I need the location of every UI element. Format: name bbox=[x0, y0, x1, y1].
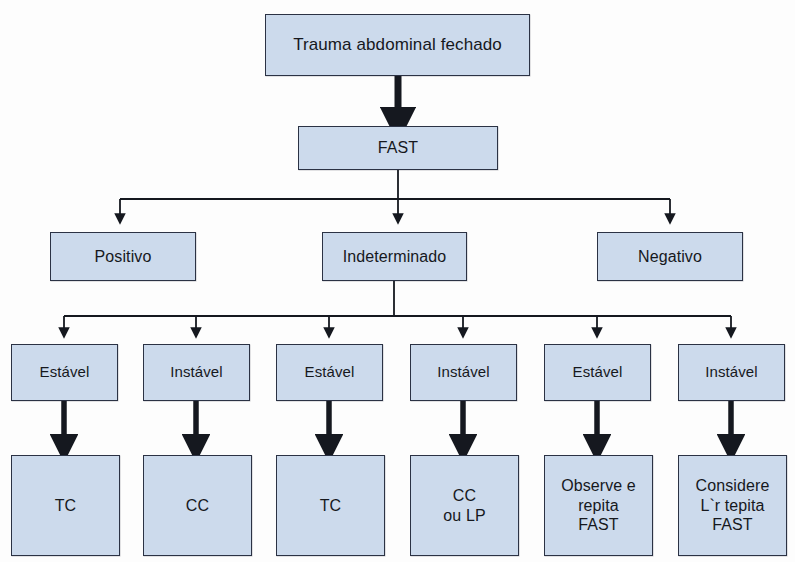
node-outcome-considere-repita-fast[interactable]: Considere L`r tepita FAST bbox=[678, 455, 787, 556]
node-outcome-cc-1[interactable]: CC bbox=[143, 455, 252, 556]
node-trauma-abdominal-fechado[interactable]: Trauma abdominal fechado bbox=[265, 14, 530, 76]
node-estavel-3[interactable]: Estável bbox=[544, 344, 651, 401]
node-fast[interactable]: FAST bbox=[298, 126, 498, 170]
node-indeterminado[interactable]: Indeterminado bbox=[322, 232, 467, 281]
node-instavel-1[interactable]: Instável bbox=[143, 344, 250, 401]
node-label: Estável bbox=[36, 363, 94, 381]
node-positivo[interactable]: Positivo bbox=[50, 232, 196, 281]
node-label: Instável bbox=[433, 363, 494, 381]
node-estavel-2[interactable]: Estável bbox=[276, 344, 383, 401]
flowchart-canvas: Trauma abdominal fechado FAST Positivo I… bbox=[0, 0, 795, 562]
node-label: Considere L`r tepita FAST bbox=[692, 476, 774, 535]
node-outcome-cc-ou-lp[interactable]: CC ou LP bbox=[410, 455, 519, 556]
edge-stability-to-outcomes bbox=[64, 401, 731, 446]
node-negativo[interactable]: Negativo bbox=[597, 232, 743, 281]
node-label: Estável bbox=[301, 363, 359, 381]
edge-fast-to-results bbox=[120, 170, 670, 219]
node-label: Instável bbox=[701, 363, 762, 381]
node-label: Positivo bbox=[91, 247, 156, 267]
node-outcome-observe-repita-fast[interactable]: Observe e repita FAST bbox=[544, 455, 653, 556]
node-label: Indeterminado bbox=[339, 247, 451, 267]
node-instavel-2[interactable]: Instável bbox=[410, 344, 517, 401]
edge-indeterminado-to-stability bbox=[64, 281, 731, 333]
node-label: Trauma abdominal fechado bbox=[289, 35, 506, 56]
node-label: Estável bbox=[569, 363, 627, 381]
node-label: CC bbox=[182, 496, 213, 516]
node-label: TC bbox=[316, 496, 346, 516]
node-instavel-3[interactable]: Instável bbox=[678, 344, 785, 401]
node-label: FAST bbox=[374, 138, 422, 158]
node-outcome-tc-2[interactable]: TC bbox=[276, 455, 385, 556]
node-label: Negativo bbox=[634, 247, 706, 267]
node-label: Instável bbox=[166, 363, 227, 381]
node-label: Observe e repita FAST bbox=[557, 476, 640, 535]
node-estavel-1[interactable]: Estável bbox=[11, 344, 118, 401]
node-label: CC ou LP bbox=[439, 486, 489, 525]
node-outcome-tc-1[interactable]: TC bbox=[11, 455, 120, 556]
node-label: TC bbox=[51, 496, 81, 516]
